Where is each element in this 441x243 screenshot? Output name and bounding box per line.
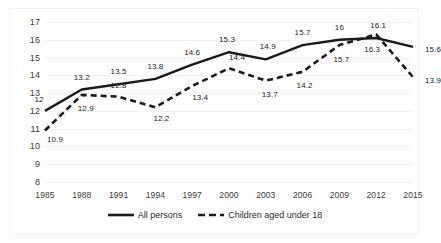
legend-item-2[interactable]: Children aged under 18 bbox=[198, 210, 322, 220]
data-point-label: 16.1 bbox=[370, 21, 386, 30]
data-point-label: 14.4 bbox=[229, 53, 245, 62]
x-axis-tick-label: 1997 bbox=[183, 190, 202, 200]
data-point-label: 12.8 bbox=[111, 80, 127, 89]
x-axis-tick-label: 2015 bbox=[403, 190, 422, 200]
data-point-label: 13.9 bbox=[425, 76, 441, 85]
data-point-label: 12.9 bbox=[78, 103, 94, 112]
data-point-label: 13.4 bbox=[192, 93, 208, 102]
legend-item-label: All persons bbox=[138, 210, 183, 220]
data-point-label: 16 bbox=[335, 22, 344, 31]
data-point-label: 12 bbox=[34, 94, 43, 103]
data-point-label: 14.9 bbox=[260, 42, 276, 51]
data-point-label: 14.2 bbox=[297, 80, 313, 89]
x-axis-tick-label: 2000 bbox=[219, 190, 238, 200]
data-point-label: 12.2 bbox=[153, 114, 169, 123]
x-axis-tick-label: 1991 bbox=[109, 190, 128, 200]
chart-legend: All personsChildren aged under 18 bbox=[0, 210, 430, 220]
series-line-2 bbox=[45, 34, 413, 130]
x-axis-tick-label: 2003 bbox=[256, 190, 275, 200]
x-axis-tick-label: 1988 bbox=[72, 190, 91, 200]
y-axis-tick-label: 17 bbox=[30, 17, 40, 27]
y-axis-tick-label: 11 bbox=[30, 124, 40, 134]
x-axis-tick-label: 2012 bbox=[367, 190, 386, 200]
data-point-label: 13.5 bbox=[111, 67, 127, 76]
legend-item-label: Children aged under 18 bbox=[228, 210, 322, 220]
series-layer bbox=[45, 22, 413, 182]
y-axis-tick-label: 10 bbox=[30, 141, 40, 151]
y-axis-tick-label: 9 bbox=[35, 159, 40, 169]
data-point-label: 15.3 bbox=[219, 35, 235, 44]
y-axis-tick-label: 14 bbox=[30, 70, 40, 80]
gridline bbox=[45, 182, 413, 183]
data-point-label: 10.9 bbox=[47, 135, 63, 144]
x-axis-tick-label: 1994 bbox=[146, 190, 165, 200]
data-point-label: 14.6 bbox=[184, 47, 200, 56]
x-axis-tick-label: 1985 bbox=[35, 190, 54, 200]
data-point-label: 13.7 bbox=[262, 89, 278, 98]
legend-line-swatch bbox=[198, 210, 224, 220]
y-axis-tick-label: 16 bbox=[30, 35, 40, 45]
data-point-label: 13.2 bbox=[74, 72, 90, 81]
y-axis-tick-label: 12 bbox=[30, 106, 40, 116]
legend-line-swatch bbox=[108, 210, 134, 220]
series-line-1 bbox=[45, 38, 413, 111]
x-axis: 1985198819911994199720002003200620092012… bbox=[45, 190, 413, 204]
data-point-label: 15.6 bbox=[425, 44, 441, 53]
x-axis-tick-label: 2006 bbox=[293, 190, 312, 200]
data-point-label: 16.3 bbox=[364, 45, 380, 54]
y-axis-tick-label: 8 bbox=[35, 177, 40, 187]
data-point-label: 13.8 bbox=[147, 61, 163, 70]
x-axis-tick-label: 2009 bbox=[330, 190, 349, 200]
data-point-label: 15.7 bbox=[295, 28, 311, 37]
data-point-label: 15.7 bbox=[333, 55, 349, 64]
legend-item-1[interactable]: All persons bbox=[108, 210, 183, 220]
plot-area: 1213.213.513.814.615.314.915.71616.115.6… bbox=[45, 22, 413, 182]
y-axis-tick-label: 15 bbox=[30, 53, 40, 63]
